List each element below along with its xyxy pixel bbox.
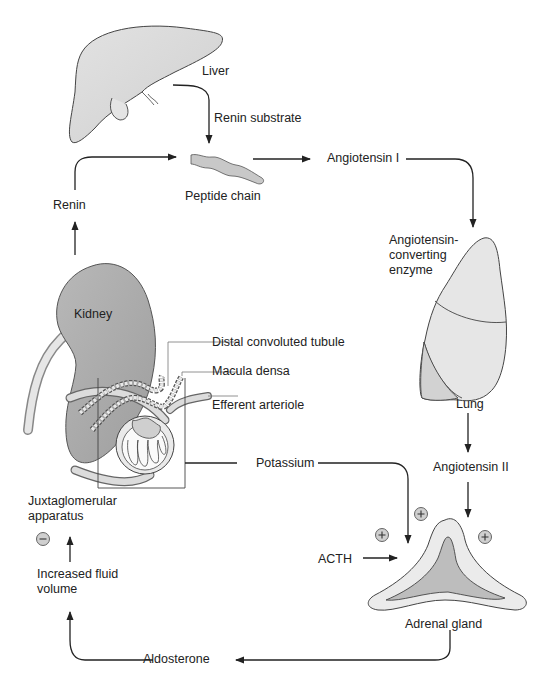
label-ace: Angiotensin- converting enzyme (389, 233, 459, 278)
label-renin-substrate: Renin substrate (214, 111, 302, 126)
arrow-renin-to-peptide (75, 157, 176, 190)
label-angiotensin-2: Angiotensin II (433, 460, 509, 475)
arrow-adrenal-to-aldosterone (236, 630, 450, 660)
label-potassium: Potassium (256, 456, 314, 471)
label-peptide-chain: Peptide chain (185, 189, 261, 204)
label-liver: Liver (202, 64, 229, 79)
label-acth: ACTH (318, 552, 352, 567)
arrow-aldosterone-to-fluid (70, 612, 153, 660)
peptide-chain-illustration (191, 155, 264, 184)
label-efferent-arteriole: Efferent arteriole (212, 398, 304, 413)
label-juxtaglomerular-apparatus: Juxtaglomerular apparatus (28, 494, 117, 524)
label-renin: Renin (53, 198, 86, 213)
adrenal-gland-illustration (368, 519, 526, 611)
label-adrenal-gland: Adrenal gland (405, 617, 482, 632)
arrow-potassium-to-adrenal (318, 463, 408, 543)
liver-illustration (69, 26, 222, 143)
label-aldosterone: Aldosterone (143, 652, 210, 667)
kidney-illustration (28, 264, 208, 488)
label-increased-fluid-volume: Increased fluid volume (37, 567, 118, 597)
label-kidney: Kidney (74, 307, 112, 322)
arrow-liver-to-peptide (173, 85, 209, 143)
label-macula-densa: Macula densa (212, 364, 290, 379)
label-lung: Lung (456, 397, 484, 412)
arrow-ang1-to-lung (406, 159, 473, 227)
label-angiotensin-1: Angiotensin I (327, 151, 399, 166)
label-distal-convoluted-tubule: Distal convoluted tubule (212, 335, 345, 350)
